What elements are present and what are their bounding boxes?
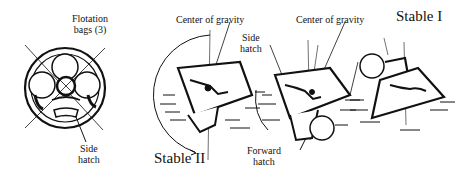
diagram-art [0, 0, 468, 176]
label-line: hatch [247, 156, 281, 167]
label-line: hatch [78, 154, 100, 165]
label-stable-i: Stable I [396, 8, 442, 24]
flotation-bag-left [29, 72, 55, 98]
label-line: Side [78, 143, 100, 154]
transition-figure [256, 22, 365, 150]
label-center-of-gravity-1: Center of gravity [176, 14, 244, 25]
label-stable-ii: Stable II [154, 150, 205, 166]
flotation-bag-right [74, 72, 100, 98]
stable-i-figure [345, 38, 455, 130]
label-line: Flotation [72, 13, 108, 24]
label-side-hatch-transition: Side hatch [240, 32, 262, 54]
label-flotation-bags: Flotation bags (3) [72, 13, 108, 35]
label-forward-hatch: Forward hatch [247, 145, 281, 167]
label-center-of-gravity-2: Center of gravity [296, 14, 364, 25]
top-view-figure [25, 45, 105, 142]
label-line: hatch [240, 43, 262, 54]
label-line: Forward [247, 145, 281, 156]
label-side-hatch-top-view: Side hatch [78, 143, 100, 165]
label-line: Side [240, 32, 262, 43]
label-line: bags (3) [72, 24, 108, 35]
